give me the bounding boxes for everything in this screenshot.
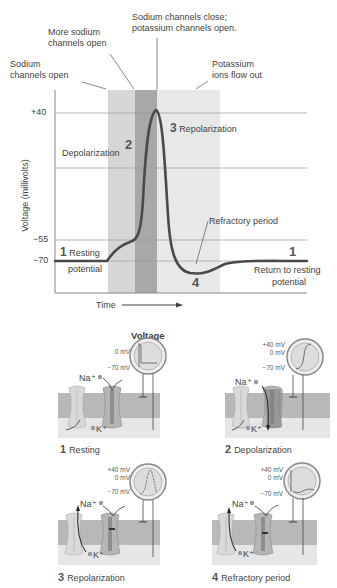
meter3-40mv: +40 mV (95, 466, 130, 473)
na-ion-label-4: Na⁺ (232, 499, 249, 510)
caption-text-3: Repolarization (67, 573, 125, 583)
caption-text-2: Depolarization (234, 445, 292, 455)
na-ion-label-2: Na⁺ (235, 377, 252, 388)
k-ion-label-2: K⁺ (251, 424, 262, 435)
meter1-0mv: 0 mV (105, 348, 130, 355)
caption-text-4: Refractory period (221, 573, 290, 583)
caption-text-1: Resting (69, 445, 100, 455)
meter3-70mv: −70 mV (95, 488, 130, 495)
caption-num-1: 1 (60, 443, 66, 455)
caption-repolarization: 3Repolarization (58, 571, 125, 583)
na-ion-label-1: Na⁺ (79, 373, 96, 384)
meter2-70mv: −70 mV (250, 364, 285, 371)
meter4-0mv: 0 mV (253, 474, 283, 481)
k-ion-label-4: K⁺ (243, 549, 254, 560)
meter2-40mv: +40 mV (250, 341, 285, 348)
k-ion-label-3: K⁺ (93, 550, 104, 561)
caption-refractory: 4Refractory period (212, 571, 290, 583)
caption-resting: 1Resting (60, 443, 100, 455)
channel-diagrams (0, 0, 337, 588)
meter4-40mv: +40 mV (248, 466, 283, 473)
caption-num-3: 3 (58, 571, 64, 583)
meter2-0mv: 0 mV (255, 349, 285, 356)
meter3-0mv: 0 mV (100, 474, 130, 481)
k-ion-label-1: K⁺ (96, 424, 107, 435)
na-ion-label-3: Na⁺ (80, 499, 97, 510)
caption-depolarization: 2Depolarization (225, 443, 292, 455)
meter1-70mv: −70 mV (100, 364, 130, 371)
caption-num-4: 4 (212, 571, 218, 583)
meter4-70mv: −70 mV (248, 490, 283, 497)
caption-num-2: 2 (225, 443, 231, 455)
